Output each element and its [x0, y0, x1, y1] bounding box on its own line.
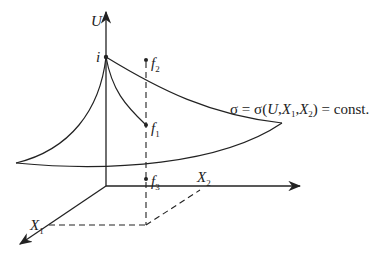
point-f1: [144, 123, 148, 127]
point-f3: [144, 177, 148, 181]
u-axis-label: U: [91, 13, 103, 29]
path-i-to-f1: [106, 57, 146, 125]
x1-axis: [20, 186, 106, 244]
point-f2-label: f2: [151, 55, 160, 74]
point-f2: [144, 58, 148, 62]
thermodynamic-surface-diagram: U i f2 f1 f3 X2 X1 σ = σ(U,X1,X2) = cons…: [0, 0, 380, 257]
point-i: [104, 55, 108, 59]
point-f3-label: f3: [151, 173, 160, 192]
point-f1-label: f1: [151, 120, 160, 139]
surface-equation: σ = σ(U,X1,X2) = const.: [230, 101, 369, 119]
projection-x2: [146, 190, 200, 225]
surface-left-edge: [16, 57, 106, 163]
surface-bottom-edge: [16, 123, 282, 166]
x2-axis-label: X2: [196, 169, 211, 188]
point-i-label: i: [96, 49, 100, 65]
